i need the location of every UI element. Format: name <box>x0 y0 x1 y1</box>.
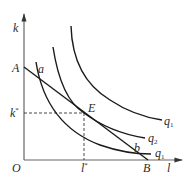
origin-label: O <box>12 161 21 175</box>
l-star-label: l* <box>81 161 88 175</box>
x-axis-label: l <box>167 161 171 175</box>
y-axis-label: k <box>13 21 19 35</box>
point-b-label: b <box>134 141 140 155</box>
k-star-label: k* <box>10 106 19 120</box>
point-a-label: A <box>11 61 20 75</box>
isocost-line-ab <box>24 67 148 160</box>
point-e-label: E <box>87 101 96 115</box>
q2-label: q2 <box>148 131 158 146</box>
isoquant-q1-high <box>71 26 162 120</box>
point-small-a-label: a <box>38 62 44 76</box>
isoquant-diagram: k l O A a E b B k* l* q1 q2 q1 <box>0 0 186 179</box>
q1-high-label: q1 <box>164 114 174 129</box>
point-big-b-label: B <box>143 161 151 175</box>
q1-low-label: q1 <box>155 146 165 161</box>
